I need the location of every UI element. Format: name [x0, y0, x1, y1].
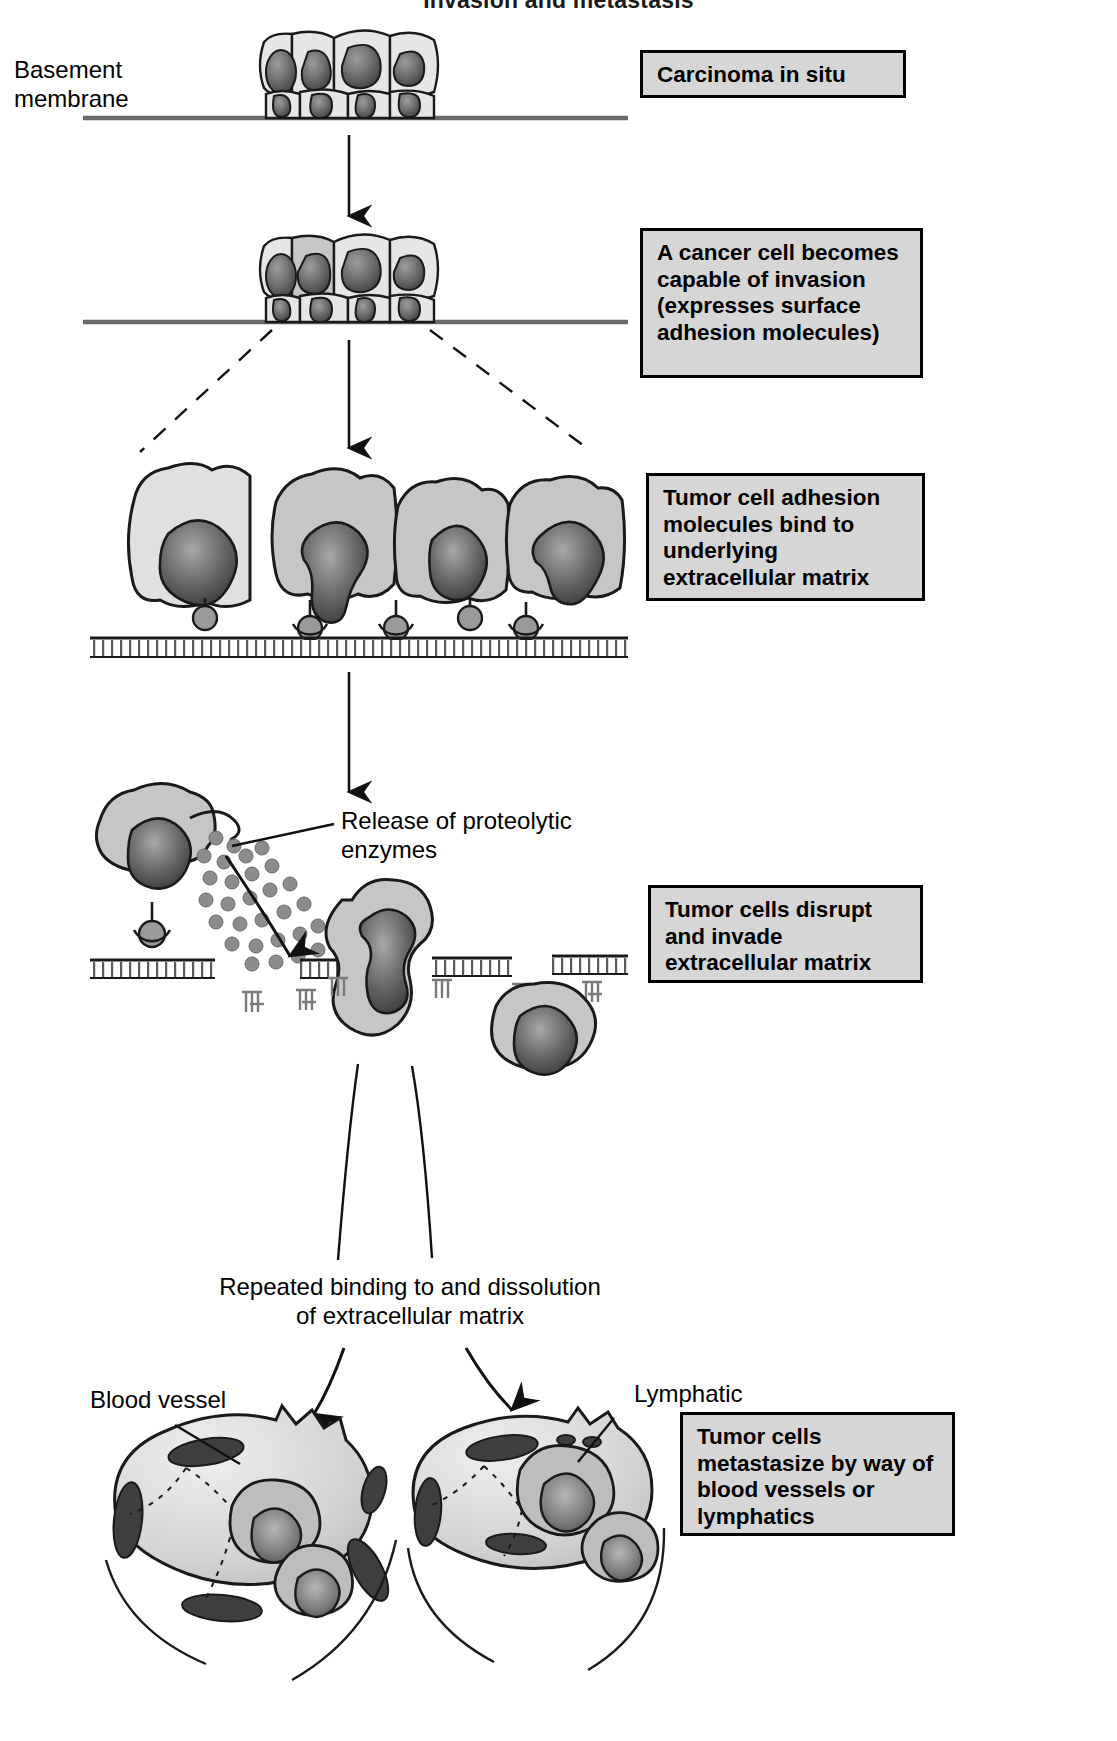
- lymphatic-vessel-structure: [408, 1408, 664, 1670]
- repeated-binding-leaders: [338, 1064, 432, 1260]
- adhesion-receptors: [193, 606, 543, 640]
- lymphatic-label: Lymphatic: [634, 1379, 743, 1408]
- proteolytic-enzyme-granules: [197, 831, 325, 971]
- callout-disrupt-invade: Tumor cells disrupt and invade extracell…: [648, 885, 923, 983]
- repeated-binding-label-line2: of extracellular matrix: [180, 1301, 640, 1330]
- callout-metastasize: Tumor cells metastasize by way of blood …: [680, 1412, 955, 1536]
- callout-cancer-cell-invasion: A cancer cell becomes capable of invasio…: [640, 228, 923, 378]
- repeated-binding-label-line1: Repeated binding to and dissolution: [180, 1272, 640, 1301]
- epithelial-cell-group-bottom-2: [266, 293, 434, 322]
- blood-vessel-label: Blood vessel: [90, 1385, 226, 1414]
- diagram-page: Invasion and metastasis: [0, 0, 1117, 1741]
- stage-1-epithelium: [83, 30, 628, 118]
- callout-adhesion-binding: Tumor cell adhesion molecules bind to un…: [646, 473, 925, 601]
- stage-3-tumor-cells-on-matrix: [90, 463, 628, 657]
- epithelial-cell-group-bottom: [266, 89, 434, 118]
- blood-vessel-structure: [106, 1406, 396, 1680]
- extracellular-matrix-band: [90, 638, 628, 657]
- callout-carcinoma-in-situ: Carcinoma in situ: [640, 50, 906, 98]
- enzyme-leader-line: [232, 824, 334, 846]
- arrow-to-blood-vessel: [314, 1348, 344, 1414]
- basement-membrane-label: Basement membrane: [14, 55, 129, 113]
- arrow-to-lymphatic: [466, 1348, 512, 1410]
- magnification-guides: [140, 330, 592, 452]
- stage-2-epithelium: [83, 234, 628, 322]
- release-enzymes-label: Release of proteolytic enzymes: [341, 806, 572, 864]
- stage-5-vessels: [106, 1406, 664, 1680]
